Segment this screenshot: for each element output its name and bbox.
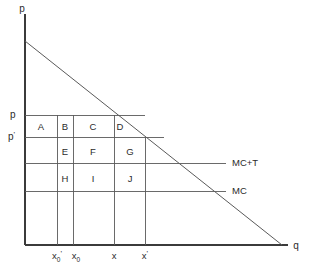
tax-incidence-diagram: p q p p' x0' x0 x x' MC+T MC A B C D E F… <box>0 0 317 269</box>
region-label-c: C <box>90 121 97 132</box>
y-axis-label: p <box>19 3 25 14</box>
region-label-b: B <box>62 121 68 132</box>
region-label-h: H <box>62 173 69 184</box>
x-axis-label: q <box>293 240 299 251</box>
mc-label: MC <box>232 185 247 196</box>
region-label-e: E <box>62 146 68 157</box>
region-label-f: F <box>90 146 96 157</box>
mc-plus-t-label: MC+T <box>232 157 258 168</box>
price-tick-label-p-prime: p' <box>8 130 16 142</box>
region-label-i: I <box>92 173 95 184</box>
quantity-tick-label-x0-prime: x0' <box>52 249 62 263</box>
quantity-tick-label-x: x <box>112 250 117 261</box>
quantity-tick-label-x-prime: x' <box>142 249 149 261</box>
quantity-tick-label-x0: x0 <box>72 250 81 263</box>
price-tick-labels-group: p p' <box>8 109 16 142</box>
region-label-d: D <box>117 121 124 132</box>
region-label-j: J <box>128 173 133 184</box>
diagram-canvas: p q p p' x0' x0 x x' MC+T MC A B C D E F… <box>0 0 317 269</box>
demand-curve-group <box>25 41 282 245</box>
region-label-a: A <box>38 121 45 132</box>
cost-curve-labels-group: MC+T MC <box>232 157 258 196</box>
region-labels-group: A B C D E F G H I J <box>38 121 134 184</box>
region-label-g: G <box>126 146 133 157</box>
price-tick-label-p: p <box>10 109 16 120</box>
demand-curve <box>25 41 282 245</box>
quantity-tick-labels-group: x0' x0 x x' <box>52 249 149 263</box>
